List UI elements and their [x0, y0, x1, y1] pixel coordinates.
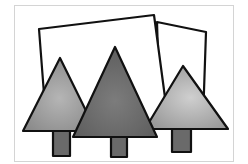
tree-illustration — [0, 0, 248, 164]
tree-left-trunk — [53, 128, 70, 156]
